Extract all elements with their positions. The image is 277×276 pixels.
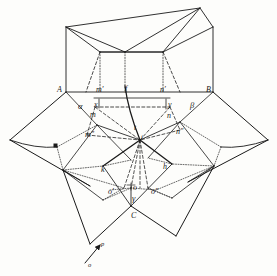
label-m: m	[90, 111, 96, 119]
label-i: i	[141, 134, 143, 141]
label-gamma: γ	[132, 194, 135, 203]
label-k: k	[101, 166, 105, 174]
label-C: C	[131, 212, 136, 220]
label-o-prime: o′	[108, 188, 114, 196]
figure-root: A B C α β γ m′ n′ f x y m n m″ n″ t i k …	[0, 0, 277, 276]
right-arm-dotted	[148, 122, 221, 198]
label-alpha: α	[78, 102, 82, 111]
label-B: B	[206, 86, 211, 94]
label-y: y	[168, 101, 172, 109]
label-n: n	[167, 112, 171, 120]
label-A: A	[57, 86, 62, 94]
label-t: t	[134, 124, 136, 132]
label-m-prime: m′	[96, 86, 104, 94]
label-m-double-prime: m″	[85, 131, 94, 139]
label-o: o	[133, 184, 137, 192]
figure-drawing	[0, 0, 277, 276]
label-o-double-prime: o″	[151, 188, 158, 196]
label-p: p	[101, 241, 104, 248]
left-node-marker	[54, 144, 58, 148]
xy-tick-marks	[99, 99, 166, 109]
label-o-bottom: o	[88, 262, 91, 269]
top-box-dotted-edges	[100, 52, 163, 92]
label-n-prime: n′	[160, 86, 166, 94]
top-box-solid-edges	[66, 8, 213, 92]
right-arm-facets	[148, 92, 214, 198]
label-f: f	[125, 85, 127, 93]
label-n-double-prime: n″	[176, 128, 183, 136]
label-beta: β	[190, 101, 194, 110]
label-h: h	[163, 163, 167, 171]
label-x: x	[94, 101, 98, 109]
star-outer-contour	[10, 92, 268, 244]
